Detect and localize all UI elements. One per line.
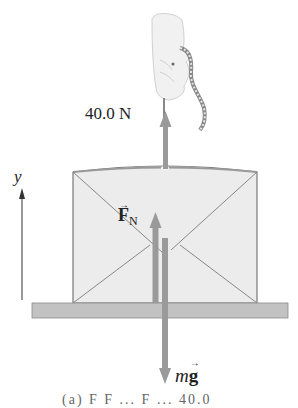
gravity-letter: g xyxy=(189,365,199,386)
weight-label: m→g xyxy=(175,365,198,387)
mass-symbol: m xyxy=(175,365,189,386)
ground xyxy=(32,303,288,318)
vector-arrow-mark: → xyxy=(190,357,200,368)
tension-label: 40.0 N xyxy=(85,104,131,124)
normal-force-subscript: N xyxy=(129,214,138,228)
y-axis xyxy=(19,188,25,300)
normal-force-label: →FN xyxy=(118,205,138,229)
tension-arrow xyxy=(160,111,172,169)
hand-icon xyxy=(152,14,190,101)
y-axis-label: y xyxy=(14,167,22,187)
caption-partial: (a) F F ... F ... 40.0 xyxy=(62,392,211,408)
gravity-symbol: →g xyxy=(189,365,199,386)
vector-arrow-mark: → xyxy=(119,199,129,210)
